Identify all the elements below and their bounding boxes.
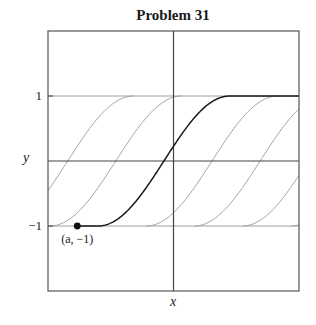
point-label: (a, −1) (61, 232, 93, 246)
y-tick-label: 1 (36, 88, 43, 103)
x-axis-label: x (169, 294, 177, 309)
y-axis-label: y (21, 150, 30, 165)
axes (48, 31, 299, 291)
chart: Problem 31 1−1 y x (a, −1) (0, 0, 316, 325)
y-tick-label: −1 (28, 218, 42, 233)
point-marker (74, 223, 81, 230)
chart-title: Problem 31 (136, 7, 209, 23)
